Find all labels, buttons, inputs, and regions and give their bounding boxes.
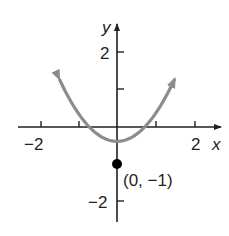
graph-figure: y 2 −2 2 x (0, −1) −2	[0, 0, 229, 236]
y-tick-label-2: 2	[100, 44, 109, 63]
y-tick-label-neg2: −2	[88, 193, 107, 212]
x-axis-label: x	[211, 135, 221, 154]
y-axis-label: y	[101, 18, 112, 37]
x-tick-label-neg2: −2	[24, 135, 43, 154]
x-ticks	[41, 121, 195, 127]
coordinate-plane: y 2 −2 2 x (0, −1) −2	[0, 0, 229, 236]
vertex-point	[112, 159, 122, 169]
vertex-label: (0, −1)	[123, 171, 173, 190]
x-tick-label-2: 2	[191, 135, 200, 154]
